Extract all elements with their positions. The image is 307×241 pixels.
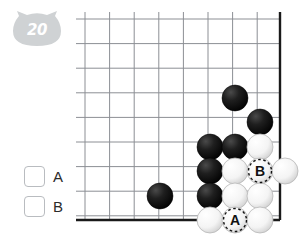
go-problem-screen: 20 A B <box>0 0 307 241</box>
black-stone <box>197 183 223 209</box>
white-stone <box>222 183 248 209</box>
black-stone <box>147 183 173 209</box>
white-stone <box>272 158 298 184</box>
black-stone <box>247 109 273 135</box>
go-board[interactable]: AB <box>0 0 307 241</box>
black-stone <box>222 85 248 111</box>
stone-layer <box>147 85 298 233</box>
white-stone <box>247 207 273 233</box>
black-stone <box>197 158 223 184</box>
white-stone <box>222 158 248 184</box>
white-stone <box>247 183 273 209</box>
white-stone <box>247 134 273 160</box>
marker-label-a: A <box>230 212 240 228</box>
white-stone <box>197 207 223 233</box>
black-stone <box>222 134 248 160</box>
marker-label-b: B <box>255 163 265 179</box>
black-stone <box>197 134 223 160</box>
